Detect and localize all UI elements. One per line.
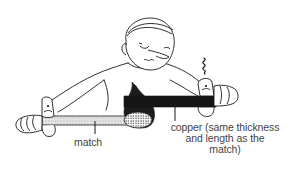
match-stick <box>42 116 128 125</box>
match-label: match <box>74 137 102 148</box>
left-hand <box>16 97 55 137</box>
match-head <box>124 112 152 128</box>
copper-rod <box>124 96 216 107</box>
heat-squiggle-icon <box>203 58 205 74</box>
copper-label-line-3: match) <box>160 144 290 155</box>
head <box>122 18 174 70</box>
copper-label: copper (same thickness and length as the… <box>160 122 290 155</box>
illustration-canvas: match copper (same thickness and length … <box>0 0 296 171</box>
